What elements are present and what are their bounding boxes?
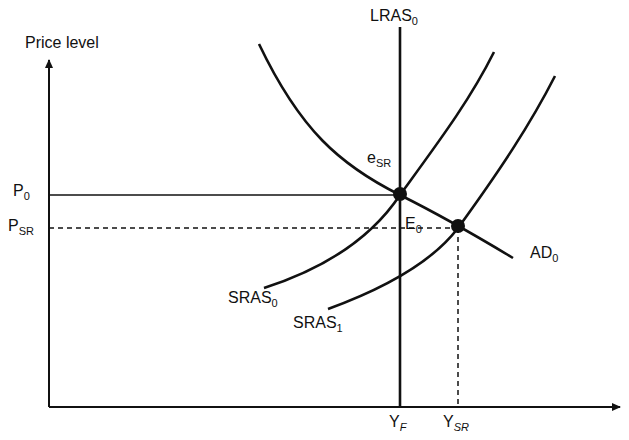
e0-label-sub: 0 xyxy=(416,223,422,235)
esr-point xyxy=(393,187,407,201)
sras0-curve xyxy=(264,52,494,288)
price-level-label: Price level xyxy=(25,34,99,51)
lras-label-main: LRAS xyxy=(370,7,412,24)
ad-label-sub: 0 xyxy=(552,252,558,264)
psr-label-sub: SR xyxy=(19,225,34,237)
ysr-label-sub: SR xyxy=(454,421,469,433)
lras-label: LRAS0 xyxy=(370,8,418,27)
sras1-label: SRAS1 xyxy=(293,315,343,334)
e0-point xyxy=(451,219,465,233)
esr-label: eSR xyxy=(367,150,391,169)
sras0-label-sub: 0 xyxy=(272,297,278,309)
p0-label-sub: 0 xyxy=(24,190,30,202)
yf-label: YF xyxy=(389,414,406,433)
e0-label-main: E xyxy=(405,215,416,232)
esr-label-sub: SR xyxy=(376,157,391,169)
sras0-label-main: SRAS xyxy=(228,289,272,306)
sras1-label-main: SRAS xyxy=(293,314,337,331)
psr-label-main: P xyxy=(8,217,19,234)
psr-label: PSR xyxy=(8,218,34,237)
ad-as-diagram xyxy=(0,0,629,440)
sras1-label-sub: 1 xyxy=(337,322,343,334)
yf-label-main: Y xyxy=(389,413,400,430)
p0-label: P0 xyxy=(13,183,30,202)
esr-label-main: e xyxy=(367,149,376,166)
ad-label: AD0 xyxy=(530,245,558,264)
e0-label: E0 xyxy=(405,216,422,235)
ysr-label: YSR xyxy=(443,414,469,433)
yf-label-sub: F xyxy=(400,421,407,433)
sras1-curve xyxy=(328,76,555,309)
ysr-label-main: Y xyxy=(443,413,454,430)
y-axis-label: Price level xyxy=(25,35,99,51)
p0-label-main: P xyxy=(13,182,24,199)
sras0-label: SRAS0 xyxy=(228,290,278,309)
ad-label-main: AD xyxy=(530,244,552,261)
lras-label-sub: 0 xyxy=(412,15,418,27)
